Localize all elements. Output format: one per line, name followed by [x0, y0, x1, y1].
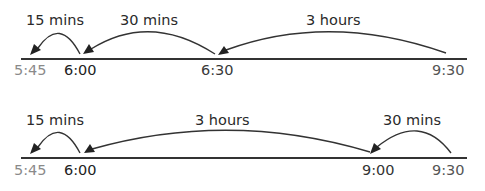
arrowhead-icon [83, 44, 94, 54]
tick-label-6-30: 6:30 [201, 62, 234, 78]
tick-label-9-30: 9:30 [432, 162, 465, 178]
interval-label-3-hours: 3 hours [195, 112, 250, 128]
interval-label-15-mins: 15 mins [26, 112, 84, 128]
arc-3-hours [92, 130, 370, 152]
tick-label-9-00: 9:00 [362, 162, 395, 178]
tick-label-9-30: 9:30 [432, 62, 465, 78]
tick-label-6-00: 6:00 [64, 62, 97, 78]
arc-30-mins [91, 32, 215, 54]
timeline-row-2: 15 mins 3 hours 30 mins 5:45 6:00 9:00 9… [14, 112, 467, 178]
timeline-diagram: 15 mins 30 mins 3 hours 5:45 6:00 6:30 9… [0, 0, 485, 191]
arrowhead-icon [218, 46, 229, 55]
interval-label-30-mins: 30 mins [383, 112, 441, 128]
tick-label-5-45: 5:45 [14, 162, 47, 178]
arc-3-hours [226, 32, 446, 53]
arc-15-mins [38, 132, 80, 153]
arc-15-mins [38, 33, 80, 54]
tick-label-6-00: 6:00 [64, 162, 97, 178]
interval-label-15-mins: 15 mins [26, 12, 84, 28]
timeline-row-1: 15 mins 30 mins 3 hours 5:45 6:00 6:30 9… [14, 12, 467, 78]
tick-label-5-45: 5:45 [14, 62, 47, 78]
arc-30-mins [377, 131, 451, 153]
interval-label-3-hours: 3 hours [306, 12, 361, 28]
interval-label-30-mins: 30 mins [120, 12, 178, 28]
